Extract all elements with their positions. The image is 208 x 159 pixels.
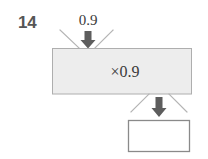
function-machine-diagram: 14 0.9 ×0.9 — [0, 0, 208, 159]
bottom-funnel-left-line — [131, 94, 149, 112]
bottom-funnel-right-line — [169, 94, 187, 112]
arrow-down-icon — [81, 31, 96, 49]
input-value-label: 0.9 — [79, 12, 98, 28]
top-funnel-right-line — [95, 30, 113, 48]
output-answer-box[interactable] — [129, 121, 190, 152]
question-number: 14 — [18, 13, 37, 32]
arrow-down-icon — [152, 97, 167, 117]
diagram-canvas: 14 0.9 ×0.9 — [0, 0, 208, 159]
top-funnel-left-line — [60, 30, 79, 48]
operation-label: ×0.9 — [110, 63, 139, 80]
